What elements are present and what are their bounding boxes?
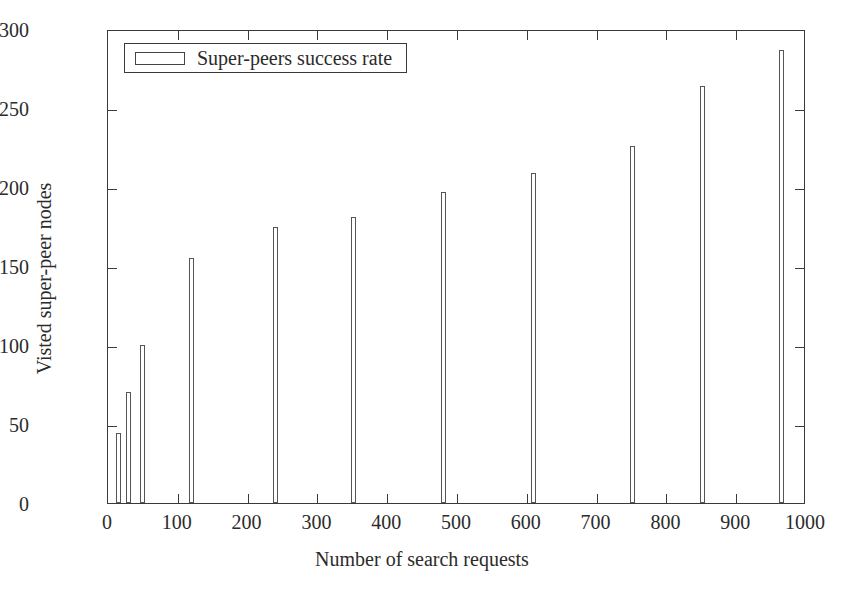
x-axis-tick <box>457 494 458 503</box>
bar <box>140 345 145 503</box>
x-axis-tick <box>248 494 249 503</box>
y-axis-tick-label: 150 <box>0 257 29 277</box>
y-axis-tick-label: 100 <box>0 336 29 356</box>
x-axis-tick-label: 600 <box>511 512 541 532</box>
y-axis-tick <box>795 189 804 190</box>
y-axis-tick-label: 0 <box>19 494 29 514</box>
y-axis-title: Visted super-peer nodes <box>33 69 56 489</box>
x-axis-tick <box>597 494 598 503</box>
bar <box>630 146 635 503</box>
y-axis-tick-label: 250 <box>0 99 29 119</box>
y-axis-tick <box>795 426 804 427</box>
y-axis-tick <box>108 347 117 348</box>
bar <box>441 192 446 503</box>
x-axis-tick-label: 200 <box>232 512 262 532</box>
x-axis-title: Number of search requests <box>0 548 844 571</box>
y-axis-tick-label: 200 <box>0 178 29 198</box>
x-axis-tick <box>387 31 388 40</box>
legend-swatch-icon <box>135 52 185 65</box>
x-axis-tick <box>317 31 318 40</box>
x-axis-tick-label: 400 <box>371 512 401 532</box>
x-axis-tick <box>666 494 667 503</box>
bar <box>700 86 705 503</box>
bar-series-super-peers-success-rate <box>108 31 804 503</box>
y-axis-tick-label: 50 <box>9 415 29 435</box>
x-axis-tick <box>457 31 458 40</box>
legend-item-label: Super-peers success rate <box>197 48 392 68</box>
bar <box>531 173 536 503</box>
x-axis-tick-label: 700 <box>581 512 611 532</box>
x-axis-tick <box>527 494 528 503</box>
y-axis-tick <box>795 268 804 269</box>
x-axis-tick-label: 100 <box>162 512 192 532</box>
chart-figure: 050100150200250300 010020030040050060070… <box>0 0 844 590</box>
x-axis-tick <box>317 494 318 503</box>
x-axis-tick-label: 500 <box>441 512 471 532</box>
x-axis-tick <box>178 494 179 503</box>
y-axis-tick <box>108 268 117 269</box>
x-axis-tick <box>666 31 667 40</box>
y-axis-tick <box>795 110 804 111</box>
bar <box>779 50 784 503</box>
x-axis-tick-label: 800 <box>650 512 680 532</box>
bar <box>273 227 278 504</box>
y-axis-tick-label: 300 <box>0 20 29 40</box>
x-axis-tick <box>736 31 737 40</box>
x-axis-tick <box>248 31 249 40</box>
x-axis-tick-label: 0 <box>102 512 112 532</box>
x-axis-tick <box>178 31 179 40</box>
y-axis-tick <box>108 110 117 111</box>
x-axis-tick <box>527 31 528 40</box>
x-axis-tick <box>387 494 388 503</box>
chart-legend: Super-peers success rate <box>124 43 407 73</box>
bar <box>351 217 356 503</box>
x-axis-tick-label: 900 <box>720 512 750 532</box>
y-axis-tick <box>108 426 117 427</box>
bar <box>116 433 121 503</box>
y-axis-tick <box>108 189 117 190</box>
y-axis-tick <box>795 347 804 348</box>
plot-area: Super-peers success rate <box>107 30 805 504</box>
bar <box>126 392 131 503</box>
x-axis-tick-label: 300 <box>301 512 331 532</box>
x-axis-tick <box>736 494 737 503</box>
x-axis-tick <box>597 31 598 40</box>
x-axis-tick-label: 1000 <box>785 512 825 532</box>
bar <box>189 258 194 503</box>
